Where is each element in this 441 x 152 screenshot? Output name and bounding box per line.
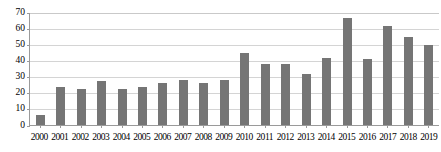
x-tick-label: 2014: [316, 131, 337, 145]
x-tick-label: 2006: [152, 131, 173, 145]
bar[interactable]: [220, 80, 229, 124]
x-tick-label: 2010: [234, 131, 255, 145]
y-tick-label: 20: [16, 88, 26, 98]
x-tick-mark: [428, 125, 429, 128]
x-tick-mark: [142, 125, 143, 128]
bar[interactable]: [404, 37, 413, 124]
x-tick-label: 2019: [419, 131, 440, 145]
x-tick-mark: [183, 125, 184, 128]
x-tick-label: 2009: [214, 131, 235, 145]
bar-slot: [112, 13, 132, 125]
bar-slot: [357, 13, 377, 125]
bar[interactable]: [240, 53, 249, 124]
x-tick-mark: [122, 125, 123, 128]
bar-slot: [296, 13, 316, 125]
x-tick-label: 2001: [50, 131, 71, 145]
bars-container: [30, 13, 439, 125]
x-tick-label: 2016: [357, 131, 378, 145]
x-tick-mark: [162, 125, 163, 128]
bar-slot: [398, 13, 418, 125]
bar[interactable]: [363, 59, 372, 124]
bar-slot: [50, 13, 70, 125]
x-tick-mark: [285, 125, 286, 128]
bar-slot: [30, 13, 50, 125]
x-tick-mark: [101, 125, 102, 128]
x-tick-label: 2000: [29, 131, 50, 145]
bar[interactable]: [158, 83, 167, 124]
bar-chart: 010203040506070 200020012002200320042005…: [0, 0, 441, 152]
x-tick-mark: [203, 125, 204, 128]
x-tick-mark: [306, 125, 307, 128]
x-tick-label: 2008: [193, 131, 214, 145]
bar[interactable]: [118, 89, 127, 125]
bar[interactable]: [56, 87, 65, 124]
bar[interactable]: [322, 58, 331, 125]
x-tick-mark: [60, 125, 61, 128]
bar-slot: [255, 13, 275, 125]
bar[interactable]: [261, 64, 270, 125]
y-tick-label: 30: [16, 72, 26, 82]
plot-area: [29, 13, 439, 126]
x-tick-label: 2005: [132, 131, 153, 145]
x-tick-mark: [244, 125, 245, 128]
y-tick-label: 70: [16, 8, 26, 18]
bar-slot: [71, 13, 91, 125]
bar[interactable]: [179, 80, 188, 124]
x-axis: 2000200120022003200420052006200720082009…: [29, 131, 439, 145]
bar[interactable]: [424, 45, 433, 124]
x-tick-mark: [40, 125, 41, 128]
x-tick-mark: [81, 125, 82, 128]
x-tick-mark: [408, 125, 409, 128]
x-tick-label: 2003: [91, 131, 112, 145]
bar-slot: [419, 13, 439, 125]
x-tick-label: 2018: [398, 131, 419, 145]
bar-slot: [275, 13, 295, 125]
x-tick-mark: [224, 125, 225, 128]
bar-slot: [153, 13, 173, 125]
y-tick-label: 50: [16, 40, 26, 50]
bar[interactable]: [199, 83, 208, 125]
bar[interactable]: [138, 87, 147, 124]
bar[interactable]: [36, 115, 45, 125]
x-tick-mark: [265, 125, 266, 128]
x-tick-label: 2012: [275, 131, 296, 145]
x-tick-label: 2011: [255, 131, 276, 145]
x-tick-mark: [367, 125, 368, 128]
x-tick-label: 2004: [111, 131, 132, 145]
bar-slot: [194, 13, 214, 125]
bar-slot: [337, 13, 357, 125]
bar-slot: [316, 13, 336, 125]
y-tick-label: 0: [20, 121, 25, 131]
bar-slot: [91, 13, 111, 125]
bar-slot: [214, 13, 234, 125]
x-tick-label: 2007: [173, 131, 194, 145]
y-axis: 010203040506070: [0, 0, 28, 152]
bar[interactable]: [383, 26, 392, 124]
x-tick-label: 2015: [337, 131, 358, 145]
x-tick-label: 2002: [70, 131, 91, 145]
bar[interactable]: [77, 89, 86, 125]
x-tick-label: 2013: [296, 131, 317, 145]
bar[interactable]: [97, 81, 106, 125]
bar[interactable]: [302, 74, 311, 124]
y-tick-label: 40: [16, 56, 26, 66]
y-tick-mark: [27, 126, 30, 127]
bar-slot: [235, 13, 255, 125]
bar-slot: [173, 13, 193, 125]
bar[interactable]: [281, 64, 290, 125]
y-tick-label: 60: [16, 24, 26, 34]
bar-slot: [132, 13, 152, 125]
x-tick-mark: [326, 125, 327, 128]
y-tick-label: 10: [16, 105, 26, 115]
bar[interactable]: [343, 18, 352, 125]
x-tick-label: 2017: [378, 131, 399, 145]
bar-slot: [378, 13, 398, 125]
x-tick-mark: [387, 125, 388, 128]
x-tick-mark: [347, 125, 348, 128]
